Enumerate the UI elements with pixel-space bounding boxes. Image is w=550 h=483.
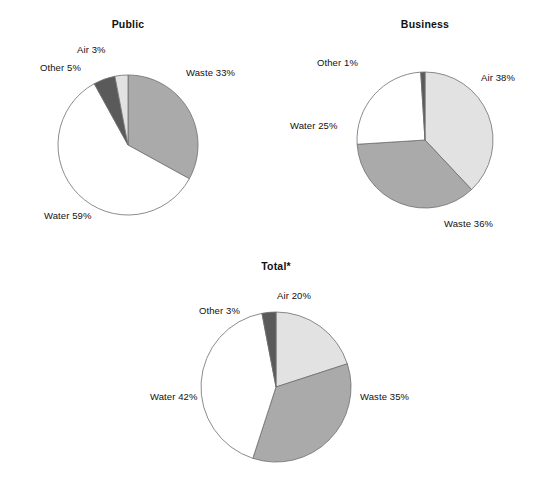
pie-slices-total (201, 312, 351, 462)
chart-business-label-waste: Waste 36% (444, 218, 493, 229)
chart-total-label-water: Water 42% (150, 391, 198, 402)
chart-public-label-air: Air 3% (77, 44, 106, 55)
chart-public-label-water: Water 59% (44, 210, 92, 221)
pie-slices-business (357, 72, 493, 208)
chart-business-label-water: Water 25% (290, 120, 338, 131)
chart-total: Total* Air 20% Waste 35% Water 42% Other… (130, 255, 450, 483)
chart-total-label-air: Air 20% (277, 290, 311, 301)
chart-public-pie (0, 0, 280, 250)
chart-public-label-other: Other 5% (40, 62, 81, 73)
pie-chart-figure: Public Waste 33% Water 59% Other 5% Air … (0, 0, 550, 483)
chart-business-label-other: Other 1% (317, 57, 358, 68)
pie-slices-public (58, 75, 198, 215)
chart-public-label-waste: Waste 33% (186, 67, 235, 78)
chart-business-label-air: Air 38% (481, 72, 515, 83)
chart-total-label-other: Other 3% (199, 305, 240, 316)
chart-public: Public Waste 33% Water 59% Other 5% Air … (0, 0, 280, 250)
pie-slice-water (357, 72, 425, 144)
chart-business: Business Air 38% Waste 36% Water 25% Oth… (280, 0, 550, 250)
chart-total-label-waste: Waste 35% (360, 391, 409, 402)
